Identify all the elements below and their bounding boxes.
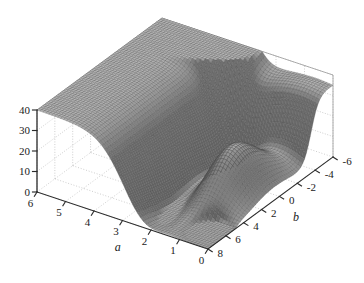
z-tick-label: 30 <box>19 124 31 136</box>
surface-plot-figure: 010203040654321086420-2-4-6ab <box>0 0 364 283</box>
plot-canvas: 010203040654321086420-2-4-6ab <box>0 0 364 283</box>
a-tick-label: 2 <box>142 235 148 247</box>
a-tick-label: 5 <box>56 206 62 218</box>
y-axis-title: b <box>293 210 299 224</box>
z-tick-label: 20 <box>19 145 31 157</box>
z-tick-label: 40 <box>19 104 31 116</box>
a-tick-label: 1 <box>170 244 176 256</box>
b-tick-label: 6 <box>235 233 241 245</box>
b-tick-label: -6 <box>343 155 353 167</box>
b-tick-label: -2 <box>307 181 316 193</box>
z-tick-label: 10 <box>19 165 31 177</box>
x-axis-title: a <box>115 240 121 254</box>
b-tick-label: 0 <box>289 194 295 206</box>
a-tick-label: 6 <box>28 197 34 209</box>
b-tick-label: 2 <box>271 207 277 219</box>
b-tick-label: 8 <box>218 247 224 259</box>
a-tick-label: 0 <box>199 254 205 266</box>
b-tick-label: 4 <box>253 220 259 232</box>
a-tick-label: 4 <box>85 216 91 228</box>
a-tick-label: 3 <box>113 225 119 237</box>
b-tick-label: -4 <box>325 168 335 180</box>
